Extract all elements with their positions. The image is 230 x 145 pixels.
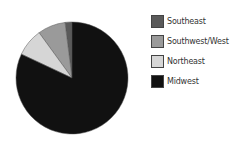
- pie-chart: [0, 0, 145, 145]
- legend-label: Southwest/West: [167, 37, 229, 46]
- legend-item-northeast: Northeast: [151, 51, 229, 71]
- legend-item-midwest: Midwest: [151, 71, 229, 91]
- legend-swatch: [151, 55, 164, 68]
- legend-item-southeast: Southeast: [151, 11, 229, 31]
- legend-swatch: [151, 15, 164, 28]
- pie-chart-svg: [0, 0, 145, 145]
- legend-swatch: [151, 75, 164, 88]
- legend-item-southwest-west: Southwest/West: [151, 31, 229, 51]
- legend-label: Midwest: [167, 77, 199, 86]
- legend-label: Northeast: [167, 57, 205, 66]
- legend-swatch: [151, 35, 164, 48]
- legend-label: Southeast: [167, 17, 206, 26]
- legend: Southeast Southwest/West Northeast Midwe…: [151, 11, 229, 91]
